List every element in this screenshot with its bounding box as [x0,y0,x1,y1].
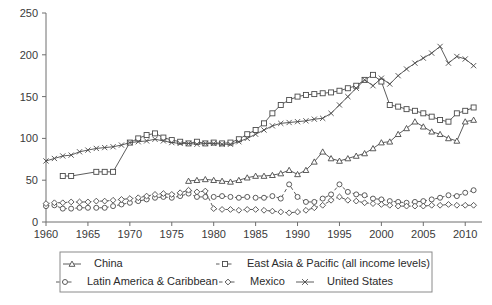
data-point [437,202,443,208]
data-point [412,61,417,66]
legend-label: China [94,257,124,269]
data-point [454,54,459,59]
data-point [111,204,116,209]
data-point [471,202,477,208]
data-point [320,202,326,208]
series-line [46,184,474,208]
data-point [420,203,426,209]
data-point [378,202,384,208]
data-point [337,88,342,93]
data-point [429,197,434,202]
data-point [295,171,301,176]
data-point [412,108,417,113]
x-tick-label: 1960 [34,228,58,240]
data-point [429,51,434,56]
chart-container: 050100150200250 196019651970197519801985… [0,0,492,305]
data-point [202,176,208,181]
data-point [345,197,351,203]
data-point [119,197,125,203]
data-point [404,66,409,71]
data-point [446,136,452,141]
data-point [354,192,359,197]
data-point [236,195,241,200]
data-point [337,194,343,200]
series-line [46,46,474,161]
data-point [395,203,401,209]
data-point [395,131,401,136]
y-tick-label: 0 [32,216,38,228]
x-tick-label: 1965 [76,228,100,240]
legend-label: Latin America & Caribbean [87,275,218,287]
data-point [320,91,325,96]
data-point [144,133,149,138]
data-point [446,119,451,124]
data-point [295,194,300,199]
series-east-asia-pacific-all-income-levels [60,72,476,178]
data-point [438,195,443,200]
data-point [320,149,326,154]
data-point [253,195,258,200]
data-point [220,141,225,146]
data-point [421,56,426,61]
data-point [328,197,334,203]
data-point [463,56,468,61]
x-tick-label: 2005 [411,228,435,240]
data-point [111,169,116,174]
data-point [270,123,275,128]
data-point [337,102,342,107]
data-point [303,207,309,213]
data-point [463,108,468,113]
data-point [471,63,476,68]
data-point [228,207,234,213]
series-china [186,117,477,184]
data-point [412,119,418,124]
x-tick-label: 2010 [453,228,477,240]
data-point [329,192,334,197]
data-point [404,107,409,112]
data-point [370,201,376,207]
data-point [370,83,375,88]
x-tick-label: 1990 [285,228,309,240]
data-point [387,81,392,86]
data-point [77,199,83,205]
data-point [261,127,266,132]
x-tick-label: 2000 [369,228,393,240]
data-point [429,114,434,119]
data-point [446,202,452,208]
data-point [295,209,301,215]
data-point [370,146,376,151]
data-point [102,205,107,210]
data-point [328,111,333,116]
legend-label: United States [327,275,394,287]
y-tick-label: 200 [20,49,38,61]
data-point [303,92,308,97]
legend-item-east-asia-pacific-all-income-levels[interactable]: East Asia & Pacific (all income levels) [216,257,430,269]
data-point [471,117,477,122]
data-point [387,202,393,208]
data-point [253,207,259,213]
data-point [269,208,275,214]
data-point [245,194,250,199]
legend-label: Mexico [250,275,285,287]
series-line [189,120,474,182]
series-latin-america-caribbean [44,182,477,211]
y-axis: 050100150200250 [20,7,46,228]
data-point [354,83,359,88]
y-tick-label: 50 [26,174,38,186]
legend-label: East Asia & Pacific (all income levels) [247,257,430,269]
data-point [244,207,250,213]
data-point [69,174,74,179]
x-tick-label: 1985 [243,228,267,240]
series-line [63,75,474,176]
legend-marker-square-icon [223,262,228,267]
data-point [127,196,133,202]
y-tick-label: 150 [20,91,38,103]
series-mexico [43,187,476,215]
data-point [287,97,292,102]
data-point [396,104,401,109]
chart-legend: ChinaEast Asia & Pacific (all income lev… [56,252,432,292]
data-point [420,124,426,129]
x-tick-label: 1975 [160,228,184,240]
data-point [286,167,292,172]
data-point [52,156,57,161]
